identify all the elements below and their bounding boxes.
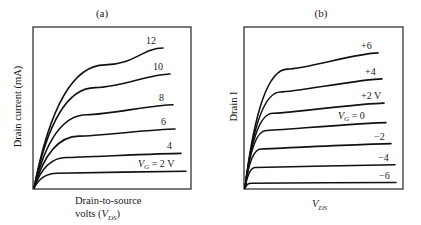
curve-vg-minus6 xyxy=(245,183,396,188)
curve-vg-minus4 xyxy=(245,165,395,188)
curve-label: VG = 0 xyxy=(338,110,365,123)
curve-label: −4 xyxy=(378,152,389,163)
curve-label: +6 xyxy=(361,40,372,51)
curve-label: −2 xyxy=(374,131,385,142)
curve-label: +2 V xyxy=(361,90,382,101)
curve-label: −6 xyxy=(379,170,390,181)
curve-vg-0 xyxy=(245,123,386,188)
curve-label: +4 xyxy=(365,66,376,77)
panel-b-x-axis-label: VDS xyxy=(312,197,327,215)
x-label-sub: DS xyxy=(318,204,327,212)
panel-b: (b) Drain I +6+4+2 VVG = 0−2−4−6 VDS xyxy=(0,0,421,225)
panel-b-plot: +6+4+2 VVG = 0−2−4−6 xyxy=(0,0,421,225)
